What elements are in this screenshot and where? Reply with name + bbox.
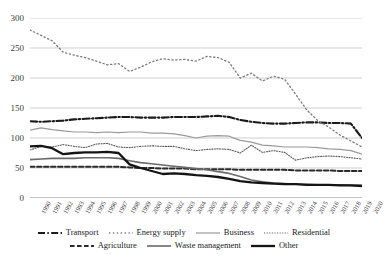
- series-line-waste-management: [30, 158, 362, 186]
- x-axis-tick-label: 2020: [372, 200, 384, 215]
- x-axis-tick-label: 2003: [183, 200, 196, 215]
- legend-item-waste-management[interactable]: Waste management: [146, 241, 241, 250]
- x-axis-tick-label: 2011: [272, 200, 284, 215]
- x-axis-tick-label: 2018: [349, 200, 362, 215]
- x-axis-tick-label: 2010: [261, 200, 274, 215]
- series-line-transport: [30, 116, 362, 138]
- legend-label: Transport: [66, 228, 99, 237]
- legend-label: Energy supply: [137, 228, 186, 237]
- series-line-energy-supply: [30, 30, 362, 147]
- x-axis-tick-label: 2013: [294, 200, 307, 215]
- x-axis-tick-label: 1991: [51, 200, 64, 215]
- legend-label: Business: [224, 228, 254, 237]
- legend-item-residential[interactable]: Residential: [263, 228, 330, 237]
- legend-label: Agriculture: [98, 241, 137, 250]
- x-axis-tick-label: 1997: [117, 200, 130, 215]
- x-axis-tick-label: 2015: [316, 200, 329, 215]
- x-axis-tick-label: 2012: [283, 200, 296, 215]
- y-axis-tick-label: 0: [0, 194, 24, 203]
- chart-canvas: [30, 18, 362, 198]
- legend-label: Residential: [292, 228, 330, 237]
- legend-label: Waste management: [175, 241, 241, 250]
- y-axis-tick-label: 250: [0, 44, 24, 53]
- y-axis-tick-label: 100: [0, 134, 24, 143]
- x-axis-tick-label: 2008: [239, 200, 252, 215]
- x-axis-tick-label: 2014: [305, 200, 318, 215]
- legend-item-business[interactable]: Business: [195, 228, 254, 237]
- x-axis-tick-label: 2009: [250, 200, 263, 215]
- legend-row: TransportEnergy supplyBusinessResidentia…: [0, 226, 367, 239]
- x-axis-tick-label: 1994: [84, 200, 97, 215]
- x-axis-tick-label: 2017: [338, 200, 351, 215]
- x-axis-tick-label: 2000: [150, 200, 163, 215]
- legend-swatch-icon: [263, 229, 289, 237]
- x-axis-tick-label: 2006: [217, 200, 230, 215]
- x-axis-tick-label: 2019: [360, 200, 373, 215]
- legend-swatch-icon: [108, 229, 134, 237]
- y-axis-tick-label: 50: [0, 164, 24, 173]
- legend-swatch-icon: [195, 229, 221, 237]
- x-axis-tick-label: 1996: [106, 200, 119, 215]
- legend-swatch-icon: [146, 242, 172, 250]
- y-axis-tick-label: 300: [0, 14, 24, 23]
- legend-item-energy-supply[interactable]: Energy supply: [108, 228, 186, 237]
- x-axis-tick-label: 2002: [172, 200, 185, 215]
- legend-swatch-icon: [37, 229, 63, 237]
- chart-legend: TransportEnergy supplyBusinessResidentia…: [0, 226, 367, 252]
- plot-area: [30, 18, 362, 198]
- x-axis-tick-label: 2004: [194, 200, 207, 215]
- legend-item-agriculture[interactable]: Agriculture: [69, 241, 137, 250]
- x-axis-tick-label: 2005: [206, 200, 219, 215]
- legend-item-other[interactable]: Other: [250, 241, 298, 250]
- legend-swatch-icon: [69, 242, 95, 250]
- x-axis-tick-label: 2007: [228, 200, 241, 215]
- legend-swatch-icon: [250, 242, 276, 250]
- x-axis-tick-label: 1995: [95, 200, 108, 215]
- legend-row: AgricultureWaste managementOther: [0, 239, 367, 252]
- x-axis-tick-label: 1992: [62, 200, 75, 215]
- x-axis-tick-label: 1993: [73, 200, 86, 215]
- y-axis-tick-label: 150: [0, 104, 24, 113]
- x-axis-tick-label: 2001: [161, 200, 174, 215]
- x-axis-tick-label: 1999: [139, 200, 152, 215]
- y-axis-tick-label: 200: [0, 74, 24, 83]
- legend-item-transport[interactable]: Transport: [37, 228, 99, 237]
- x-axis-tick-label: 1998: [128, 200, 141, 215]
- legend-label: Other: [279, 241, 298, 250]
- x-axis-tick-label: 2016: [327, 200, 340, 215]
- x-axis-tick-label: 1990: [40, 200, 53, 215]
